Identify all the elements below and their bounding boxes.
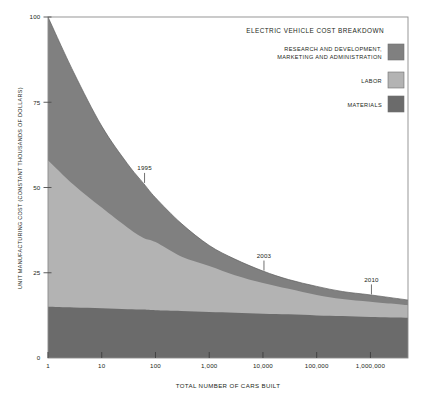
legend-item-label: MATERIALS [348,102,382,108]
x-tick-label: 1 [46,362,50,369]
legend-title: ELECTRIC VEHICLE COST BREAKDOWN [246,27,384,34]
y-axis-title: UNIT MANUFACTURING COST (CONSTANT THOUSA… [17,87,23,289]
y-tick-label: 100 [30,13,41,20]
x-axis-title: TOTAL NUMBER OF CARS BUILT [176,382,281,389]
materials-swatch [388,96,404,112]
y-tick-label: 50 [33,184,41,191]
labor-swatch [388,72,404,88]
x-tick-label: 100 [150,362,161,369]
rnd-swatch [388,44,404,60]
x-tick-label: 10,000 [253,362,273,369]
year-annotation-label: 2003 [257,252,272,259]
legend-item-label: LABOR [361,78,382,84]
year-annotation-label: 1995 [137,164,152,171]
y-tick-label: 75 [33,99,41,106]
x-tick-label: 100,000 [305,362,329,369]
y-tick-label: 0 [37,354,41,361]
x-tick-label: 1,000 [201,362,218,369]
chart-figure: 0255075100 1101001,00010,000100,0001,000… [0,0,430,405]
legend-item-label: MARKETING AND ADMINISTRATION [277,54,382,60]
y-tick-label: 25 [33,269,41,276]
legend-item-label: RESEARCH AND DEVELOPMENT, [284,46,382,52]
x-tick-label: 10 [98,362,106,369]
x-tick-label: 1,000,000 [356,362,386,369]
chart-canvas: 0255075100 1101001,00010,000100,0001,000… [0,0,430,405]
year-annotation-label: 2010 [364,276,379,283]
